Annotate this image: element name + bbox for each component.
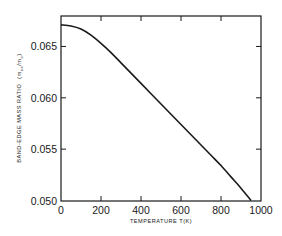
y-tick-label: 0.065 — [31, 40, 57, 52]
x-tick-label: 0 — [58, 204, 64, 216]
y-axis-ticks — [61, 46, 261, 149]
chart: 02004006008001000 0.0500.0550.0600.065 T… — [0, 0, 282, 236]
x-tick-label: 800 — [212, 204, 230, 216]
y-tick-label: 0.055 — [31, 143, 57, 155]
y-axis-title: BAND-EDGE MASS RATIO (moe/mo) — [16, 53, 24, 162]
x-tick-label: 200 — [92, 204, 110, 216]
x-axis-title: TEMPERATURE T(K) — [130, 218, 192, 224]
y-axis-tick-labels: 0.0500.0550.0600.065 — [31, 40, 57, 206]
data-line — [61, 25, 251, 201]
x-tick-label: 600 — [172, 204, 190, 216]
x-tick-label: 1000 — [249, 204, 273, 216]
x-axis-ticks — [101, 16, 221, 201]
y-tick-label: 0.060 — [31, 92, 57, 104]
y-tick-label: 0.050 — [31, 195, 57, 207]
x-tick-label: 400 — [132, 204, 150, 216]
plot-frame — [61, 16, 261, 201]
x-axis-tick-labels: 02004006008001000 — [58, 204, 273, 216]
